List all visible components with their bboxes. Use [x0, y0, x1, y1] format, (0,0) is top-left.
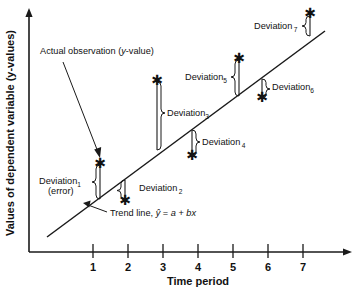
deviation-label-3-word: Deviation	[167, 108, 205, 118]
deviation-label-5-index: 5	[223, 77, 227, 84]
trend-line-label: Trend line, ŷ = a + bx	[110, 208, 196, 218]
x-tick-label-6: 6	[265, 261, 271, 273]
deviation-brace-3	[157, 82, 165, 150]
trend-line-label-pre: Trend line,	[110, 208, 156, 218]
x-tick-label-4: 4	[195, 261, 202, 273]
deviation-label-4: Deviation4	[202, 137, 246, 149]
deviation-label-1-index: 1	[77, 181, 81, 188]
deviation-label-1-word: Deviation	[39, 176, 77, 186]
actual-observation-leader	[63, 62, 98, 152]
deviation-label-2-word: Deviation	[139, 183, 177, 193]
deviation-label-3-index: 3	[205, 113, 209, 120]
deviation-label-6: Deviation6	[272, 82, 314, 94]
actual-observation-label: Actual observation (y-value)	[40, 46, 154, 56]
x-tick-label-5: 5	[230, 261, 236, 273]
deviation-label-7-index: 7	[294, 26, 298, 33]
deviation-label-2: Deviation2	[139, 183, 183, 195]
actual-observation-text: Actual observation (	[40, 46, 121, 56]
deviation-label-5: Deviation5	[185, 72, 227, 84]
trend-line-label-plus: +	[176, 208, 186, 218]
trend-line-leader	[88, 205, 107, 212]
x-tick-label-7: 7	[300, 261, 306, 273]
deviation-label-1-error: (error)	[48, 186, 74, 196]
deviation-label-7-word: Deviation	[254, 21, 292, 31]
regression-deviation-diagram: 1 2 3 4 5 6 7 Time period Values of depe…	[0, 0, 361, 289]
figure-container: 1 2 3 4 5 6 7 Time period Values of depe…	[0, 0, 361, 289]
deviation-label-6-word: Deviation	[272, 82, 310, 92]
trend-line-label-bx: bx	[186, 208, 196, 218]
x-axis-arrowhead	[343, 248, 352, 255]
x-axis-ticks-group: 1 2 3 4 5 6 7	[90, 244, 306, 273]
trend-line-callout: Trend line, ŷ = a + bx	[83, 201, 196, 218]
trend-line-label-eq: =	[160, 208, 170, 218]
deviation-label-7: Deviation7	[254, 21, 298, 33]
x-axis-title: Time period	[167, 275, 229, 287]
x-tick-label-2: 2	[125, 261, 131, 273]
deviation-label-5-word: Deviation	[185, 72, 223, 82]
x-tick-label-1: 1	[90, 261, 96, 273]
y-axis-title: Values of dependent variable (y-values)	[4, 30, 16, 236]
deviation-label-6-index: 6	[310, 87, 314, 94]
deviation-label-2-index: 2	[179, 188, 183, 195]
x-tick-label-3: 3	[160, 261, 166, 273]
deviation-label-4-word: Deviation	[202, 137, 240, 147]
actual-observation-callout: Actual observation (y-value)	[40, 46, 154, 158]
y-axis-arrowhead	[25, 8, 32, 17]
deviation-label-4-index: 4	[242, 142, 246, 149]
deviation-label-3: Deviation3	[167, 108, 209, 120]
actual-observation-tail: -value)	[126, 46, 154, 56]
